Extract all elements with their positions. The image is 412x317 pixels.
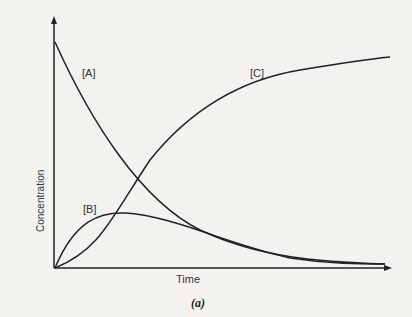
- label-a: [A]: [82, 67, 95, 79]
- curve-b: [55, 213, 385, 268]
- x-axis-label: Time: [176, 273, 200, 285]
- y-axis-label: Concentration: [35, 170, 46, 232]
- chart-plot: [0, 0, 412, 317]
- label-c: [C]: [250, 67, 264, 79]
- curve-c: [55, 57, 390, 268]
- label-b: [B]: [83, 203, 96, 215]
- figure-caption: (a): [191, 296, 205, 311]
- curve-a: [55, 42, 385, 264]
